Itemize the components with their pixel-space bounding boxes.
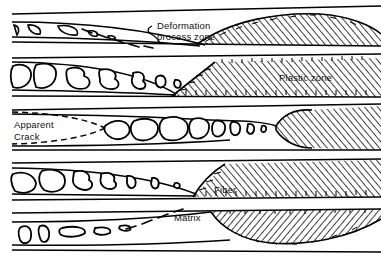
label-apparent-crack-line1: Apparent	[14, 119, 54, 130]
composite-crack-diagram: Deformation process zone	[0, 0, 381, 262]
label-plastic-zone: Plastic zone	[279, 72, 332, 83]
band-2-bottom-edge	[12, 96, 381, 97]
label-deformation-zone-line1: Deformation	[157, 20, 210, 31]
label-fiber: Fiber	[214, 184, 236, 195]
label-apparent-crack-line2: Crack	[14, 131, 40, 142]
figure-canvas: Deformation process zone	[0, 0, 381, 262]
label-deformation-zone-line2: process zone	[157, 31, 215, 42]
label-matrix: Matrix	[174, 212, 201, 223]
